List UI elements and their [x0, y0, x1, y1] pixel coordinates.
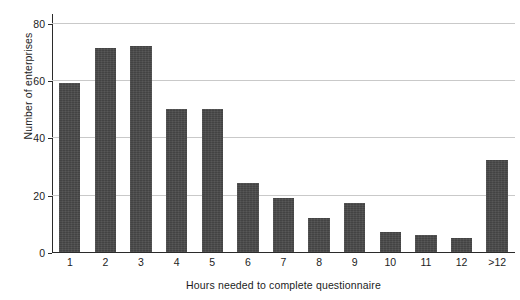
bars-group [52, 14, 515, 252]
y-tick-mark [48, 253, 52, 254]
bar-slot [337, 14, 373, 252]
bar-slot [266, 14, 302, 252]
bar [202, 109, 223, 252]
bar-slot [373, 14, 409, 252]
bar-slot [194, 14, 230, 252]
bar-slot [408, 14, 444, 252]
bar-slot [52, 14, 88, 252]
bar [166, 109, 187, 252]
y-tick-label: 20 [33, 190, 45, 202]
y-tick-label: 80 [33, 18, 45, 30]
bar [344, 203, 365, 252]
bar-slot [301, 14, 337, 252]
x-axis-ticks: 123456789101112>12 [52, 256, 515, 274]
x-tick-label: 8 [301, 256, 337, 268]
bar [486, 160, 507, 252]
x-tick-label: 3 [123, 256, 159, 268]
bar [415, 235, 436, 252]
bar-slot [123, 14, 159, 252]
x-tick-label: >12 [479, 256, 515, 268]
y-tick-label: 40 [33, 132, 45, 144]
bar-slot [88, 14, 124, 252]
x-tick-label: 1 [52, 256, 88, 268]
bar [59, 83, 80, 252]
y-tick-label: 60 [33, 75, 45, 87]
x-tick-label: 9 [337, 256, 373, 268]
bar-chart-figure: Number of enterprises 020406080 12345678… [0, 0, 520, 300]
y-axis-title: Number of enterprises [22, 6, 34, 166]
bar [308, 218, 329, 252]
x-tick-label: 2 [88, 256, 124, 268]
bar-slot [479, 14, 515, 252]
bar [237, 183, 258, 252]
x-tick-label: 4 [159, 256, 195, 268]
y-tick-label: 0 [39, 247, 45, 259]
x-tick-label: 7 [266, 256, 302, 268]
x-tick-label: 6 [230, 256, 266, 268]
bar [451, 238, 472, 252]
bar-slot [230, 14, 266, 252]
bar [95, 48, 116, 252]
x-tick-label: 12 [444, 256, 480, 268]
bar [380, 232, 401, 252]
bar [130, 46, 151, 252]
x-axis-line [52, 252, 515, 253]
plot-area: 020406080 [52, 14, 515, 253]
bar-slot [159, 14, 195, 252]
x-tick-label: 11 [408, 256, 444, 268]
x-tick-label: 5 [194, 256, 230, 268]
bar-slot [444, 14, 480, 252]
x-axis-title: Hours needed to complete questionnaire [52, 279, 515, 291]
bar [273, 198, 294, 252]
x-tick-label: 10 [373, 256, 409, 268]
